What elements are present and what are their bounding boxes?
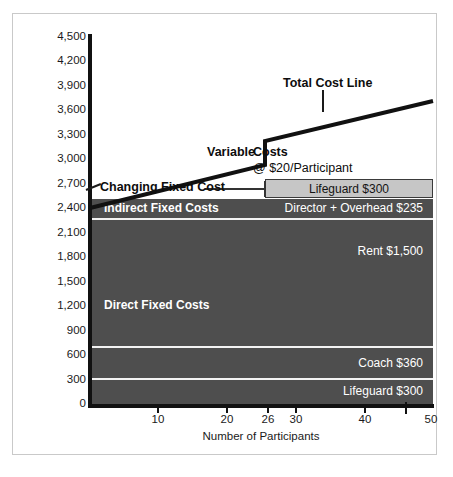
x-tick-50: 50 (411, 413, 451, 425)
y-tick-300: 300 (34, 374, 86, 385)
x-tick-mark-20 (226, 406, 228, 413)
y-axis-tick-labels: 4,500 4,200 3,900 3,600 3,300 3,000 2,70… (30, 0, 86, 410)
y-tick-4500: 4,500 (34, 31, 86, 42)
band-divider-2160 (92, 218, 433, 220)
cost-structure-chart: Rent $1,500 Direct Fixed Costs Coach $36… (0, 0, 453, 477)
y-tick-1800: 1,800 (34, 251, 86, 262)
y-axis-line (88, 34, 92, 406)
y-tick-3300: 3,300 (34, 129, 86, 140)
cost-band-coach: Coach $360 (92, 348, 433, 378)
band-label-lifeguard: Lifeguard $300 (343, 384, 423, 398)
y-tick-3000: 3,000 (34, 153, 86, 164)
annotation-variable-rate: @ $20/Participant (253, 161, 353, 175)
band-label-director-overhead: Director + Overhead $235 (285, 201, 423, 215)
cost-band-rent: Rent $1,500 Direct Fixed Costs (92, 220, 433, 346)
y-tick-3900: 3,900 (34, 80, 86, 91)
x-tick-10: 10 (138, 413, 178, 425)
group-label-direct-fixed-costs: Direct Fixed Costs (104, 298, 209, 312)
y-tick-3600: 3,600 (34, 104, 86, 115)
x-tick-30: 30 (276, 413, 316, 425)
group-label-indirect-fixed-costs: Indirect Fixed Costs (104, 201, 219, 215)
y-tick-2700: 2,700 (34, 178, 86, 189)
y-tick-4200: 4,200 (34, 55, 86, 66)
x-tick-mark-10 (157, 406, 159, 413)
annotation-variable-costs-2: Costs (253, 145, 288, 159)
x-axis-title: Number of Participants (88, 430, 434, 442)
x-tick-mark-50 (405, 402, 407, 414)
band-divider-660 (92, 346, 433, 348)
y-tick-900: 900 (34, 325, 86, 336)
band-label-rent: Rent $1,500 (358, 244, 423, 258)
band-label-lifeguard-step: Lifeguard $300 (266, 182, 432, 196)
annotation-variable-costs: Variable (207, 145, 255, 159)
x-tick-mark-26 (267, 406, 269, 413)
step-leader-cap (264, 181, 266, 197)
x-tick-mark-30 (295, 406, 297, 413)
cost-band-director-overhead: Director + Overhead $235 Indirect Fixed … (92, 199, 433, 218)
annotation-changing-fixed-cost: Changing Fixed Cost (100, 180, 225, 194)
x-tick-20: 20 (207, 413, 247, 425)
y-tick-600: 600 (34, 349, 86, 360)
band-divider-300 (92, 378, 433, 380)
x-tick-40: 40 (345, 413, 385, 425)
annotation-total-cost-line: Total Cost Line (283, 76, 372, 90)
y-tick-1200: 1,200 (34, 300, 86, 311)
x-tick-mark-40 (364, 406, 366, 413)
band-label-coach: Coach $360 (358, 356, 423, 370)
y-tick-2400: 2,400 (34, 202, 86, 213)
y-tick-2100: 2,100 (34, 227, 86, 238)
y-tick-0: 0 (34, 398, 86, 409)
x-axis-line (88, 404, 434, 408)
annotation-total-cost-line-pointer (322, 90, 324, 112)
cost-band-lifeguard-step: Lifeguard $300 (265, 179, 433, 198)
y-tick-1500: 1,500 (34, 276, 86, 287)
cost-band-lifeguard: Lifeguard $300 (92, 380, 433, 405)
